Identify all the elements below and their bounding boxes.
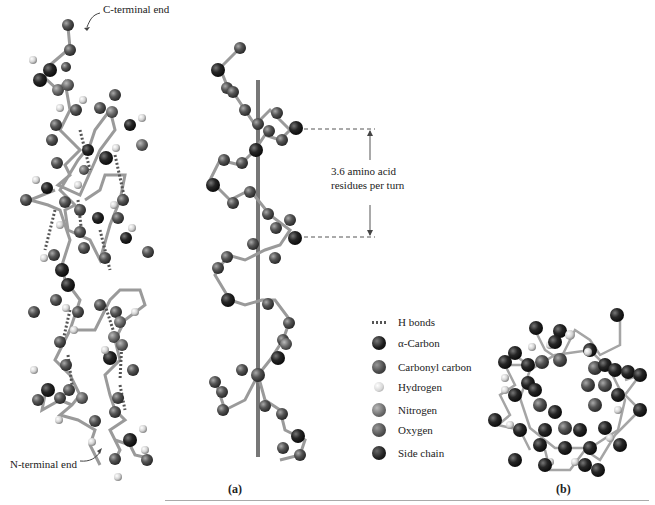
sphere-icon	[372, 360, 386, 374]
legend-label: H bonds	[398, 316, 435, 328]
sphere-icon	[372, 446, 386, 460]
helix-end-on-view	[488, 308, 647, 477]
legend-item-oxygen: Oxygen	[372, 420, 433, 440]
legend-label: Nitrogen	[398, 404, 437, 416]
legend-item-h-bonds: H bonds	[372, 312, 435, 332]
legend-item-side-chain: Side chain	[372, 443, 444, 463]
legend-item-alpha-carbon: α-Carbon	[372, 333, 440, 353]
legend-item-carbonyl-carbon: Carbonyl carbon	[372, 357, 472, 377]
legend-label: α-Carbon	[398, 337, 440, 349]
c-terminal-leader	[87, 13, 100, 27]
legend-label: Side chain	[398, 447, 444, 459]
helix-axis-rod	[256, 80, 260, 457]
alpha-helix-illustration	[0, 0, 655, 505]
legend-item-hydrogen: Hydrogen	[372, 377, 442, 397]
sphere-icon	[372, 403, 386, 417]
sphere-icon	[374, 382, 384, 392]
caption-divider	[165, 500, 649, 501]
c-terminal-label: C-terminal end	[103, 3, 169, 16]
panel-b-label: (b)	[556, 482, 571, 497]
sphere-icon	[372, 423, 386, 437]
legend-label: Hydrogen	[398, 381, 442, 393]
panel-a-label: (a)	[228, 482, 242, 497]
legend-item-nitrogen: Nitrogen	[372, 400, 437, 420]
helix-ball-and-stick-model	[20, 13, 154, 481]
legend-label: Oxygen	[398, 424, 433, 436]
dotted-line-icon	[372, 321, 388, 324]
sphere-icon	[372, 336, 386, 350]
helix-backbone-model	[206, 42, 375, 461]
turn-label-line1: 3.6 amino acid	[331, 165, 396, 178]
n-terminal-label: N-terminal end	[10, 458, 77, 471]
turn-label-line2: residues per turn	[331, 179, 404, 192]
legend-label: Carbonyl carbon	[398, 361, 472, 373]
